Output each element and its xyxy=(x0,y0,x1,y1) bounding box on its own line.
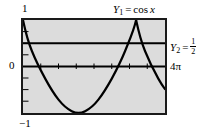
x-range-label: 4π xyxy=(170,60,181,72)
y-axis-zero-label: 0 xyxy=(9,60,15,71)
plot-canvas xyxy=(23,20,165,113)
y2-subscript: 2 xyxy=(176,46,180,55)
cosine-graph-figure: 1 0 −1 Y1=cosx Y2=12 4π xyxy=(0,0,206,133)
cosine-curve-continued xyxy=(136,20,165,89)
y1-argument: x xyxy=(150,3,155,15)
y2-equation-label: Y2=12 xyxy=(170,37,196,57)
y-axis-max-label: 1 xyxy=(22,3,28,14)
y1-equation-label: Y1=cosx xyxy=(113,3,155,19)
y1-function-name: cos xyxy=(133,3,148,15)
fraction-numerator: 1 xyxy=(190,37,196,46)
y1-subscript: 1 xyxy=(119,8,123,17)
pi-symbol: π xyxy=(176,60,182,72)
y1-equals-sign: = xyxy=(125,3,131,15)
y2-equals-sign: = xyxy=(182,41,188,53)
one-half-fraction: 12 xyxy=(190,37,196,56)
fraction-denominator: 2 xyxy=(190,46,196,56)
y-axis-min-label: −1 xyxy=(19,118,31,129)
calculator-screen xyxy=(21,18,167,115)
